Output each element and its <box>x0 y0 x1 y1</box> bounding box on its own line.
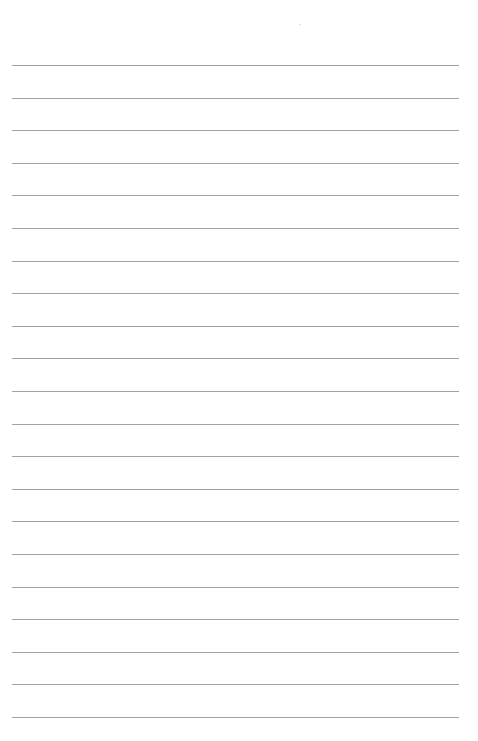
ruled-line <box>12 65 459 66</box>
ruled-line <box>12 130 459 131</box>
ruled-line <box>12 652 459 653</box>
paper-speck <box>299 24 301 25</box>
ruled-line <box>12 424 459 425</box>
ruled-line <box>12 521 459 522</box>
ruled-line <box>12 554 459 555</box>
ruled-line <box>12 163 459 164</box>
ruled-line <box>12 195 459 196</box>
ruled-line <box>12 619 459 620</box>
ruled-line <box>12 98 459 99</box>
ruled-line <box>12 587 459 588</box>
ruled-line <box>12 358 459 359</box>
ruled-line <box>12 456 459 457</box>
ruled-line <box>12 684 459 685</box>
ruled-line <box>12 293 459 294</box>
lined-paper-page <box>0 0 478 741</box>
ruled-line <box>12 489 459 490</box>
ruled-line <box>12 391 459 392</box>
ruled-line <box>12 228 459 229</box>
ruled-line <box>12 261 459 262</box>
ruled-line <box>12 717 459 718</box>
ruled-line <box>12 326 459 327</box>
